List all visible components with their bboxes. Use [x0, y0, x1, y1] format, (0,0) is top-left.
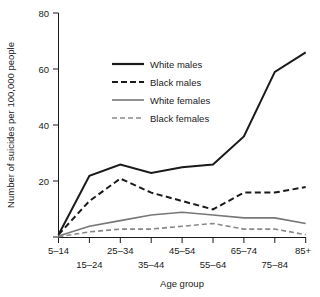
- x-tick-label-5-14: 5–14: [48, 245, 69, 256]
- y-axis: 80 60 40 20 Number of suicides per 100,0…: [5, 8, 59, 238]
- legend-item-black-males: Black males: [112, 77, 201, 88]
- x-tick-label-55-64: 55–64: [200, 259, 226, 270]
- suicide-rate-line-chart: 80 60 40 20 Number of suicides per 100,0…: [0, 0, 320, 297]
- legend-item-white-males: White males: [112, 59, 203, 70]
- y-tick-marks: [53, 13, 59, 237]
- legend-item-black-females: Black females: [112, 113, 209, 124]
- series-line-white-females: [59, 212, 306, 236]
- y-tick-label-80: 80: [38, 8, 49, 19]
- x-tick-label-85-plus: 85+: [295, 245, 312, 256]
- chart-canvas: 80 60 40 20 Number of suicides per 100,0…: [0, 0, 320, 297]
- x-tick-label-75-84: 75–84: [262, 259, 288, 270]
- x-axis-title: Age group: [160, 278, 204, 289]
- x-axis: 5–14 15–24 25–34 35–44 45–54 55–64 65–74…: [48, 238, 312, 290]
- x-tick-label-35-44: 35–44: [138, 259, 164, 270]
- y-tick-label-40: 40: [38, 120, 49, 131]
- y-tick-label-60: 60: [38, 64, 49, 75]
- chart-legend: White males Black males White females Bl…: [112, 59, 210, 124]
- x-tick-label-65-74: 65–74: [231, 245, 257, 256]
- x-tick-label-15-24: 15–24: [76, 259, 102, 270]
- x-tick-marks: [59, 238, 306, 244]
- y-tick-label-20: 20: [38, 176, 49, 187]
- legend-label-white-males: White males: [150, 59, 203, 70]
- y-axis-title: Number of suicides per 100,000 people: [5, 42, 16, 208]
- legend-label-black-males: Black males: [150, 77, 201, 88]
- legend-item-white-females: White females: [112, 95, 210, 106]
- legend-label-black-females: Black females: [150, 113, 209, 124]
- legend-label-white-females: White females: [150, 95, 210, 106]
- x-tick-label-25-34: 25–34: [107, 245, 133, 256]
- x-tick-label-45-54: 45–54: [169, 245, 195, 256]
